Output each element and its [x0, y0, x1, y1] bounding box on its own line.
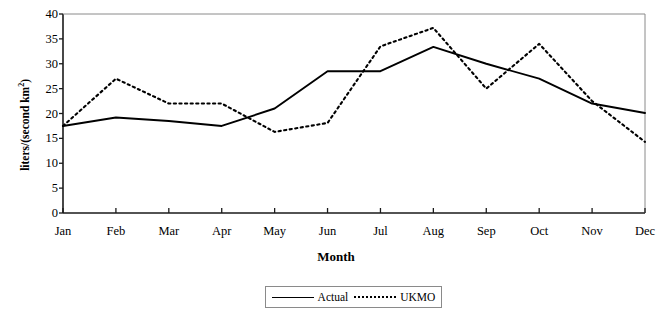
x-axis-tick-label: Dec: [621, 224, 669, 239]
legend-label-ukmo: UKMO: [400, 291, 435, 303]
x-axis-tick-label: Oct: [515, 224, 563, 239]
legend-entry-ukmo: UKMO: [354, 291, 435, 303]
x-axis-tick-label: Feb: [92, 224, 140, 239]
x-axis-tick-label: Aug: [409, 224, 457, 239]
series-line-ukmo: [63, 28, 645, 142]
legend-label-actual: Actual: [318, 291, 349, 303]
x-axis-tick-labels: JanFebMarAprMayJunJulAugSepOctNovDec: [0, 224, 672, 244]
x-axis-tick-label: Jan: [39, 224, 87, 239]
x-axis-tick-label: Jun: [304, 224, 352, 239]
legend-swatch-solid-line: [272, 297, 314, 298]
series-line-actual: [63, 47, 645, 126]
x-axis-tick-label: Apr: [198, 224, 246, 239]
chart-figure: liters/(second km2) 0510152025303540 Jan…: [0, 0, 672, 315]
x-axis-tick-label: Jul: [356, 224, 404, 239]
chart-legend: Actual UKMO: [265, 286, 442, 308]
x-axis-tick-label: May: [251, 224, 299, 239]
x-axis-title: Month: [0, 249, 672, 265]
legend-entry-actual: Actual: [272, 291, 349, 303]
legend-swatch-dotted-line: [354, 296, 396, 298]
x-axis-tick-label: Sep: [462, 224, 510, 239]
x-axis-tick-label: Nov: [568, 224, 616, 239]
x-axis-tick-label: Mar: [145, 224, 193, 239]
plot-area: [0, 0, 672, 315]
